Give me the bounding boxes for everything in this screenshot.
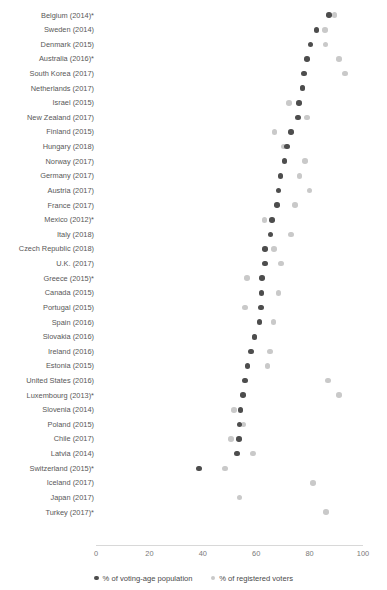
- row-label-21: Spain (2016): [0, 315, 94, 330]
- chart-row: South Korea (2017): [0, 66, 387, 81]
- legend-swatch-dark-icon: [94, 576, 99, 581]
- row-label-33: Japan (2017): [0, 490, 94, 505]
- chart-row: Israel (2015): [0, 95, 387, 110]
- datapoint-registered-voters[interactable]: [278, 261, 284, 267]
- datapoint-voting-age-population[interactable]: [236, 436, 242, 442]
- datapoint-voting-age-population[interactable]: [326, 12, 332, 18]
- row-label-7: New Zealand (2017): [0, 110, 94, 125]
- datapoint-registered-voters[interactable]: [267, 349, 273, 355]
- x-tick-40: 40: [199, 549, 207, 558]
- datapoint-registered-voters[interactable]: [332, 12, 338, 18]
- datapoint-voting-age-population[interactable]: [240, 392, 246, 398]
- chart-row: Greece (2015)*: [0, 271, 387, 286]
- chart-row: Slovenia (2014): [0, 402, 387, 417]
- datapoint-registered-voters[interactable]: [271, 319, 277, 325]
- chart-row: Canada (2015): [0, 285, 387, 300]
- chart-row: Sweden (2014): [0, 22, 387, 37]
- datapoint-registered-voters[interactable]: [322, 27, 328, 33]
- datapoint-voting-age-population[interactable]: [234, 451, 240, 457]
- datapoint-registered-voters[interactable]: [342, 71, 348, 77]
- chart-row: Norway (2017): [0, 154, 387, 169]
- row-label-3: Australia (2016)*: [0, 51, 94, 66]
- datapoint-voting-age-population[interactable]: [278, 173, 284, 179]
- datapoint-voting-age-population[interactable]: [269, 217, 275, 223]
- row-label-32: Iceland (2017): [0, 475, 94, 490]
- row-label-19: Canada (2015): [0, 285, 94, 300]
- chart-row: Mexico (2012)*: [0, 212, 387, 227]
- datapoint-voting-age-population[interactable]: [282, 158, 288, 164]
- datapoint-voting-age-population[interactable]: [308, 42, 314, 48]
- datapoint-registered-voters[interactable]: [286, 100, 292, 106]
- legend-item-voting-age[interactable]: % of voting-age population: [94, 574, 193, 583]
- datapoint-registered-voters[interactable]: [325, 378, 331, 384]
- row-label-26: Luxembourg (2013)*: [0, 388, 94, 403]
- row-label-24: Estonia (2015): [0, 358, 94, 373]
- datapoint-registered-voters[interactable]: [237, 495, 243, 501]
- datapoint-registered-voters[interactable]: [244, 275, 250, 281]
- datapoint-registered-voters[interactable]: [228, 436, 234, 442]
- datapoint-voting-age-population[interactable]: [252, 334, 258, 340]
- datapoint-registered-voters[interactable]: [323, 42, 329, 48]
- datapoint-voting-age-population[interactable]: [301, 71, 307, 77]
- datapoint-registered-voters[interactable]: [265, 363, 271, 369]
- datapoint-voting-age-population[interactable]: [245, 363, 251, 369]
- datapoint-voting-age-population[interactable]: [268, 232, 274, 238]
- datapoint-voting-age-population[interactable]: [296, 100, 302, 106]
- datapoint-voting-age-population[interactable]: [300, 85, 306, 91]
- legend-item-registered[interactable]: % of registered voters: [211, 574, 293, 583]
- datapoint-registered-voters[interactable]: [271, 246, 277, 252]
- chart-row: Turkey (2017)*: [0, 505, 387, 520]
- datapoint-registered-voters[interactable]: [272, 129, 278, 135]
- datapoint-voting-age-population[interactable]: [238, 407, 244, 413]
- datapoint-voting-age-population[interactable]: [295, 115, 301, 121]
- datapoint-registered-voters[interactable]: [336, 392, 342, 398]
- chart-row: U.K. (2017): [0, 256, 387, 271]
- datapoint-registered-voters[interactable]: [262, 217, 268, 223]
- datapoint-voting-age-population[interactable]: [304, 56, 310, 62]
- datapoint-registered-voters[interactable]: [297, 173, 303, 179]
- datapoint-voting-age-population[interactable]: [196, 466, 202, 472]
- datapoint-voting-age-population[interactable]: [258, 305, 264, 311]
- datapoint-registered-voters[interactable]: [250, 451, 256, 457]
- datapoint-voting-age-population[interactable]: [262, 246, 268, 252]
- datapoint-registered-voters[interactable]: [231, 407, 237, 413]
- legend-label-voting-age: % of voting-age population: [103, 574, 193, 583]
- datapoint-voting-age-population[interactable]: [259, 290, 265, 296]
- datapoint-voting-age-population[interactable]: [257, 319, 263, 325]
- datapoint-voting-age-population[interactable]: [284, 144, 290, 150]
- plot-area: Belgium (2014)*Sweden (2014)Denmark (201…: [0, 0, 387, 545]
- datapoint-voting-age-population[interactable]: [288, 129, 294, 135]
- row-label-14: Mexico (2012)*: [0, 212, 94, 227]
- datapoint-registered-voters[interactable]: [292, 202, 298, 208]
- datapoint-registered-voters[interactable]: [307, 188, 313, 194]
- chart-row: Japan (2017): [0, 490, 387, 505]
- chart-row: Germany (2017): [0, 168, 387, 183]
- datapoint-registered-voters[interactable]: [323, 509, 329, 515]
- row-label-6: Israel (2015): [0, 95, 94, 110]
- datapoint-registered-voters[interactable]: [310, 480, 316, 486]
- chart-row: Netherlands (2017): [0, 81, 387, 96]
- datapoint-registered-voters[interactable]: [222, 466, 228, 472]
- row-label-10: Norway (2017): [0, 154, 94, 169]
- datapoint-voting-age-population[interactable]: [259, 275, 265, 281]
- row-label-13: France (2017): [0, 198, 94, 213]
- datapoint-registered-voters[interactable]: [304, 115, 310, 121]
- chart-row: Poland (2015): [0, 417, 387, 432]
- datapoint-voting-age-population[interactable]: [248, 349, 254, 355]
- row-label-11: Germany (2017): [0, 168, 94, 183]
- legend-label-registered: % of registered voters: [219, 574, 293, 583]
- datapoint-registered-voters[interactable]: [302, 158, 308, 164]
- datapoint-voting-age-population[interactable]: [274, 202, 280, 208]
- datapoint-registered-voters[interactable]: [288, 232, 294, 238]
- datapoint-registered-voters[interactable]: [336, 56, 342, 62]
- row-label-4: South Korea (2017): [0, 66, 94, 81]
- datapoint-voting-age-population[interactable]: [262, 261, 268, 267]
- datapoint-registered-voters[interactable]: [242, 305, 248, 311]
- row-label-17: U.K. (2017): [0, 256, 94, 271]
- datapoint-voting-age-population[interactable]: [276, 188, 282, 194]
- row-label-20: Portugal (2015): [0, 300, 94, 315]
- datapoint-registered-voters[interactable]: [276, 290, 282, 296]
- chart-row: Denmark (2015): [0, 37, 387, 52]
- datapoint-voting-age-population[interactable]: [242, 378, 248, 384]
- datapoint-voting-age-population[interactable]: [314, 27, 320, 33]
